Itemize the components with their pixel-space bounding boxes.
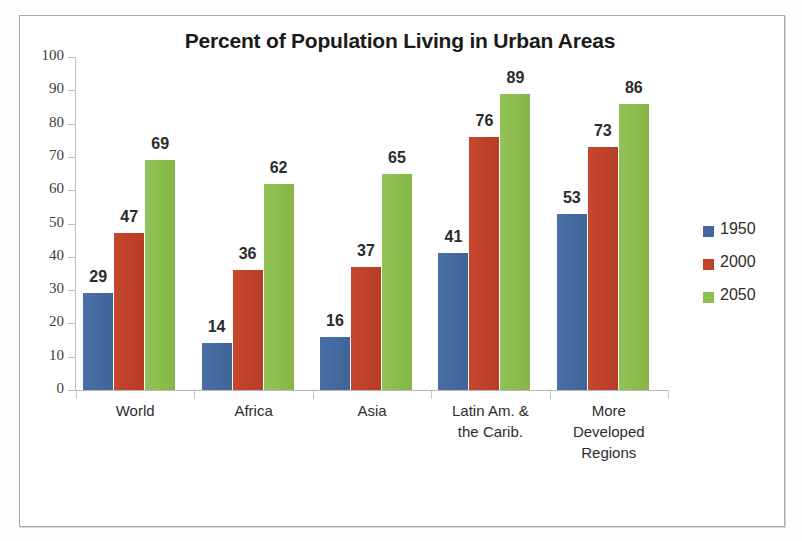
y-axis-tick-label: 60 [24, 180, 64, 197]
y-axis-tick-label: 0 [24, 380, 64, 397]
bar-2050-2[interactable] [382, 174, 412, 390]
bar-value-label: 76 [457, 112, 511, 130]
category-tick [76, 391, 77, 399]
category-tick [431, 391, 432, 399]
y-axis-tick-label: 70 [24, 147, 64, 164]
y-axis-line [75, 57, 76, 391]
y-axis-tick-label: 100 [24, 47, 64, 64]
bar-1950-1[interactable] [202, 343, 232, 390]
y-axis-tick [68, 190, 75, 191]
bar-2000-0[interactable] [114, 233, 144, 390]
bar-2050-1[interactable] [264, 184, 294, 390]
bar-value-label: 86 [607, 79, 661, 97]
legend-item-2050[interactable]: 2050 [700, 288, 780, 321]
y-axis-tick-label: 40 [24, 247, 64, 264]
bar-2050-3[interactable] [500, 94, 530, 390]
category-label-line: Developed [536, 421, 682, 442]
y-axis-tick-label: 10 [24, 347, 64, 364]
y-axis-tick-label: 80 [24, 114, 64, 131]
y-axis-tick-label: 50 [24, 214, 64, 231]
bar-value-label: 41 [426, 228, 480, 246]
legend-item-label: 1950 [720, 220, 756, 238]
x-axis-line [75, 390, 668, 391]
y-axis-tick [68, 290, 75, 291]
category-tick [668, 391, 669, 399]
y-axis-tick-label: 30 [24, 280, 64, 297]
category-label: MoreDevelopedRegions [536, 400, 682, 463]
y-axis-tick [68, 124, 75, 125]
legend-color-swatch [703, 292, 714, 303]
chart-legend: 195020002050 [700, 222, 780, 321]
y-axis-tick [68, 357, 75, 358]
bar-value-label: 65 [370, 149, 424, 167]
bar-value-label: 53 [545, 189, 599, 207]
scanned-page: Percent of Population Living in Urban Ar… [0, 0, 802, 541]
legend-item-1950[interactable]: 1950 [700, 222, 780, 255]
bar-value-label: 37 [339, 242, 393, 260]
y-axis-tick [68, 390, 75, 391]
legend-item-2000[interactable]: 2000 [700, 255, 780, 288]
bar-1950-4[interactable] [557, 214, 587, 390]
bar-2050-4[interactable] [619, 104, 649, 390]
bar-chart: Percent of Population Living in Urban Ar… [0, 0, 802, 541]
bar-value-label: 73 [576, 122, 630, 140]
legend-color-swatch [703, 226, 714, 237]
y-axis-tick [68, 57, 75, 58]
legend-item-label: 2000 [720, 253, 756, 271]
bar-2000-4[interactable] [588, 147, 618, 390]
y-axis-tick-label: 90 [24, 80, 64, 97]
category-tick [313, 391, 314, 399]
bar-value-label: 89 [488, 69, 542, 87]
category-label-line: Regions [536, 442, 682, 463]
y-axis-tick-label: 20 [24, 313, 64, 330]
bar-value-label: 29 [71, 268, 125, 286]
category-tick [194, 391, 195, 399]
bar-2000-3[interactable] [469, 137, 499, 390]
bar-value-label: 69 [133, 135, 187, 153]
y-axis-tick [68, 224, 75, 225]
legend-item-label: 2050 [720, 286, 756, 304]
y-axis-tick [68, 323, 75, 324]
y-axis-tick-labels: 1009080706050403020100 [18, 0, 64, 541]
bar-value-label: 16 [308, 312, 362, 330]
bar-1950-2[interactable] [320, 337, 350, 390]
legend-color-swatch [703, 259, 714, 270]
y-axis-tick [68, 90, 75, 91]
bar-value-label: 62 [252, 159, 306, 177]
category-tick [550, 391, 551, 399]
bar-1950-3[interactable] [438, 253, 468, 390]
bar-value-label: 36 [221, 245, 275, 263]
bar-1950-0[interactable] [83, 293, 113, 390]
chart-title: Percent of Population Living in Urban Ar… [120, 29, 680, 53]
category-label-line: More [536, 400, 682, 421]
bar-value-label: 47 [102, 208, 156, 226]
y-axis-tick [68, 157, 75, 158]
bar-value-label: 14 [190, 318, 244, 336]
bar-2050-0[interactable] [145, 160, 175, 390]
y-axis-tick [68, 257, 75, 258]
